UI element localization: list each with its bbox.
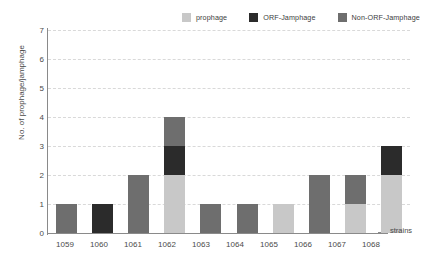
x-axis-tick-label: 1064 [218, 240, 252, 254]
x-axis-tick-label: 1068 [354, 240, 388, 254]
x-axis-tick-label: 1060 [82, 240, 116, 254]
bar-stack-1066 [309, 175, 330, 233]
bar-series-group [48, 30, 410, 233]
bar-segment [381, 175, 402, 233]
legend-item-non-orf-jamphage: Non-ORF-Jamphage [338, 13, 420, 22]
bar-segment [345, 204, 366, 233]
legend-label-orf-jamphage: ORF-Jamphage [263, 13, 315, 22]
y-axis-tick-label: 5 [4, 84, 44, 93]
legend-label-prophage: prophage [196, 13, 227, 22]
bar-stack-1064 [237, 204, 258, 233]
legend-swatch-prophage [182, 13, 191, 22]
bar-segment [345, 175, 366, 204]
bar-stack-1068 [381, 146, 402, 233]
stacked-bar-chart: prophage ORF-Jamphage Non-ORF-Jamphage N… [0, 0, 428, 272]
y-axis-tick-label: 0 [4, 229, 44, 238]
x-axis-tick-label: 1059 [48, 240, 82, 254]
bar-segment [200, 204, 221, 233]
x-axis-line [48, 233, 388, 234]
bar-segment [164, 175, 185, 233]
chart-legend: prophage ORF-Jamphage Non-ORF-Jamphage [182, 10, 426, 24]
legend-swatch-non-orf-jamphage [338, 13, 347, 22]
x-axis-tick-labels: 1059106010611062106310641065106610671068 [48, 240, 388, 254]
bar-slot [157, 30, 193, 233]
bar-slot [48, 30, 84, 233]
y-axis-tick-label: 3 [4, 142, 44, 151]
legend-swatch-orf-jamphage [249, 13, 258, 22]
bar-segment [164, 146, 185, 175]
bar-slot [193, 30, 229, 233]
y-axis-tick-label: 4 [4, 113, 44, 122]
bar-segment [381, 146, 402, 175]
bar-stack-1060 [92, 204, 113, 233]
y-axis-tick-label: 2 [4, 171, 44, 180]
bar-stack-1062 [164, 117, 185, 233]
bar-slot [229, 30, 265, 233]
bar-segment [273, 204, 294, 233]
bar-stack-1059 [56, 204, 77, 233]
bar-segment [56, 204, 77, 233]
bar-stack-1067 [345, 175, 366, 233]
x-axis-tick-label: 1066 [286, 240, 320, 254]
bar-segment [92, 204, 113, 233]
x-axis-tick-label: 1065 [252, 240, 286, 254]
x-axis-annotation-strains: strains [390, 226, 412, 235]
x-axis-tick-label: 1063 [184, 240, 218, 254]
bar-stack-1061 [128, 175, 149, 233]
legend-item-prophage: prophage [182, 13, 227, 22]
bar-segment [309, 175, 330, 233]
x-axis-tick-label: 1062 [150, 240, 184, 254]
bar-slot [265, 30, 301, 233]
plot-area [48, 30, 410, 233]
legend-label-non-orf-jamphage: Non-ORF-Jamphage [352, 13, 420, 22]
bar-slot [84, 30, 120, 233]
bar-segment [128, 175, 149, 233]
bar-slot [374, 30, 410, 233]
bar-stack-1065 [273, 204, 294, 233]
y-axis-tick-label: 6 [4, 55, 44, 64]
y-axis-tick-label: 1 [4, 200, 44, 209]
bar-segment [237, 204, 258, 233]
bar-slot [301, 30, 337, 233]
y-axis-tick-labels: 76543210 [0, 30, 44, 233]
bar-slot [120, 30, 156, 233]
bar-stack-1063 [200, 204, 221, 233]
x-axis-tick-label: 1067 [320, 240, 354, 254]
x-axis-tick-label: 1061 [116, 240, 150, 254]
bar-slot [338, 30, 374, 233]
y-axis-tick-label: 7 [4, 26, 44, 35]
legend-item-orf-jamphage: ORF-Jamphage [249, 13, 315, 22]
bar-segment [164, 117, 185, 146]
